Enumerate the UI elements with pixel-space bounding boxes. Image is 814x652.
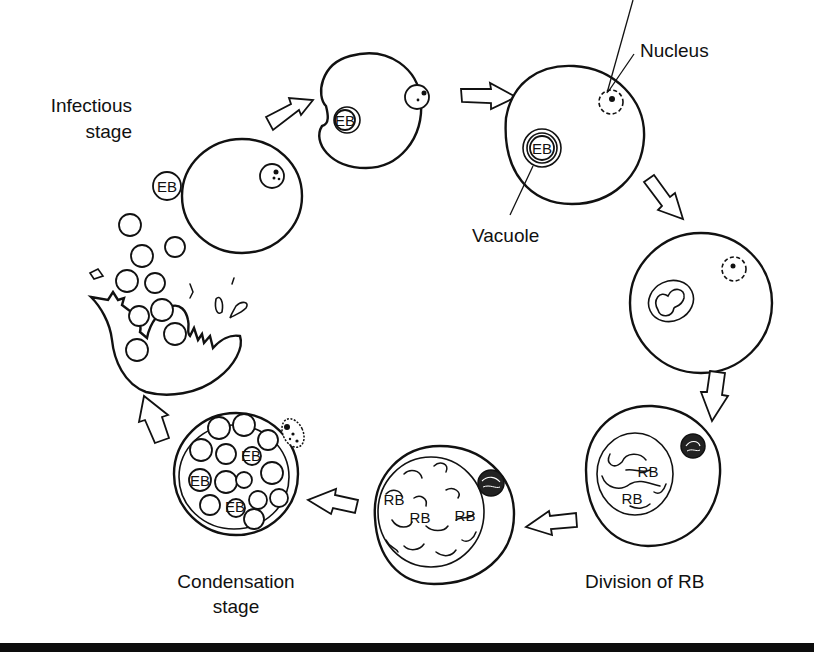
nucleus-icon xyxy=(405,85,429,109)
arrow-icon xyxy=(266,98,313,130)
eb-particle-entering: EB xyxy=(334,107,360,133)
arrow-icon xyxy=(701,371,728,421)
eb-particle-attached: EB xyxy=(153,172,181,200)
condensation-label-line2: stage xyxy=(213,596,259,617)
eb-label: EB xyxy=(532,140,552,157)
rb-label: RB xyxy=(638,463,659,480)
eb-label: EB xyxy=(225,498,245,515)
eb-in-vacuole: EB xyxy=(523,129,561,167)
eb-label: EB xyxy=(241,447,261,464)
nucleus-label: Nucleus xyxy=(640,40,709,61)
bottom-border-rule xyxy=(0,643,814,652)
arrow-icon xyxy=(308,489,358,514)
arrow-icon xyxy=(526,511,577,535)
leader-line xyxy=(607,0,633,93)
cell-division-stage: RB RB xyxy=(586,406,720,546)
cell-condensation-stage: EB EB EB xyxy=(174,413,308,535)
cell-attachment-stage: EB xyxy=(153,139,302,253)
condensation-stage-label: Condensation stage xyxy=(177,571,294,617)
nucleus-icon xyxy=(260,164,284,188)
arrow-icon xyxy=(139,396,169,443)
arrow-icon xyxy=(461,83,516,109)
nucleus-icon xyxy=(478,470,504,496)
condensation-label-line1: Condensation xyxy=(177,571,294,592)
rb-label: RB xyxy=(455,507,476,524)
arrow-icon xyxy=(644,175,683,219)
nucleus-callout: Nucleus xyxy=(607,0,709,93)
cell-conversion-stage xyxy=(630,233,772,373)
cell-vacuole-stage: EB xyxy=(506,66,644,204)
infectious-stage-label: Infectious stage xyxy=(51,95,132,142)
nucleus-icon xyxy=(681,434,705,458)
rb-label: RB xyxy=(384,491,405,508)
eb-label: EB xyxy=(190,472,210,489)
eb-label: EB xyxy=(335,112,355,129)
chlamydia-life-cycle-diagram: Infectious stage EB EB xyxy=(0,0,814,652)
cell-entry-stage: EB xyxy=(319,53,429,168)
vacuole-label: Vacuole xyxy=(472,225,539,246)
eb-label: EB xyxy=(157,178,177,195)
division-of-rb-label: Division of RB xyxy=(585,571,704,592)
rb-label: RB xyxy=(622,490,643,507)
cell-multiplication-stage: RB RB RB xyxy=(375,446,514,584)
rb-label: RB xyxy=(410,509,431,526)
infectious-stage-label-line2: stage xyxy=(86,121,132,142)
infectious-stage-label-line1: Infectious xyxy=(51,95,132,116)
